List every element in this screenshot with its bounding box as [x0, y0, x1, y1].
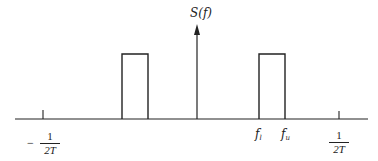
y-axis-label-text: S(f): [190, 6, 212, 20]
y-axis-label: S(f): [190, 7, 212, 19]
denominator: 2T: [329, 142, 349, 155]
f-lower-sub: l: [259, 134, 261, 142]
minus-sign: −: [27, 137, 34, 149]
numerator: 1: [40, 131, 60, 143]
tick-label-neg-half-rate: − 1 2T: [40, 131, 60, 156]
band-negative: [122, 54, 148, 119]
denominator: 2T: [40, 143, 60, 156]
numerator: 1: [329, 130, 349, 142]
band-positive: [259, 54, 285, 119]
tick-label-f-lower: fl: [255, 128, 262, 142]
tick-label-pos-half-rate: 1 2T: [329, 130, 349, 155]
tick-label-f-upper: fu: [281, 128, 290, 142]
arrow-up-icon: [194, 24, 200, 35]
f-upper-sub: u: [285, 134, 290, 142]
